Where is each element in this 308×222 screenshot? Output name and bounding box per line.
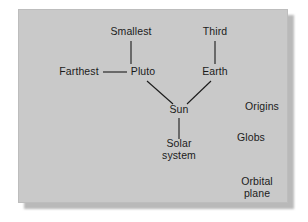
node-smallest: Smallest [110,26,151,38]
node-sun: Sun [170,104,189,116]
edge-pluto-sun [147,81,173,104]
node-origins: Origins [245,101,279,113]
diagram-panel: Smallest Third Farthest Pluto Earth Sun … [18,9,288,203]
node-third: Third [203,26,227,38]
node-orbital-plane: Orbital plane [241,176,273,199]
node-solar-system: Solar system [162,138,196,161]
node-globs: Globs [237,132,265,144]
node-farthest: Farthest [59,66,98,78]
node-earth: Earth [202,66,228,78]
node-pluto: Pluto [131,66,155,78]
diagram-canvas: Smallest Third Farthest Pluto Earth Sun … [0,0,308,222]
edge-earth-sun [187,81,211,104]
